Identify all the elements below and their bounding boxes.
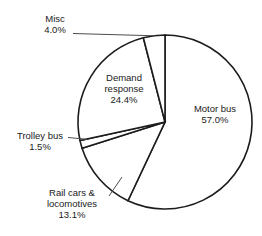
- pie-label-motor-bus-name: Motor bus: [180, 103, 250, 114]
- pie-label-misc-percent: 4.0%: [26, 24, 84, 35]
- pie-label-motor-bus: Motor bus 57.0%: [180, 103, 250, 125]
- pie-label-trolley-bus: Trolley bus 1.5%: [2, 130, 78, 152]
- pie-label-misc: Misc 4.0%: [26, 13, 84, 35]
- pie-label-motor-bus-percent: 57.0%: [180, 114, 250, 125]
- pie-label-demand-response: Demand response 24.4%: [88, 72, 160, 105]
- leader-line-misc: [73, 34, 155, 36]
- pie-label-rail-cars-name-line1: Rail cars &: [34, 187, 110, 198]
- pie-label-trolley-bus-percent: 1.5%: [2, 141, 78, 152]
- pie-label-demand-response-name-line2: response: [88, 83, 160, 94]
- pie-label-demand-response-percent: 24.4%: [88, 94, 160, 105]
- pie-chart: Misc 4.0% Demand response 24.4% Motor bu…: [0, 0, 262, 236]
- pie-label-misc-name: Misc: [26, 13, 84, 24]
- pie-label-rail-cars-percent: 13.1%: [34, 209, 110, 220]
- pie-label-rail-cars-name-line2: locomotives: [34, 198, 110, 209]
- pie-label-trolley-bus-name: Trolley bus: [2, 130, 78, 141]
- pie-label-demand-response-name-line1: Demand: [88, 72, 160, 83]
- pie-label-rail-cars-locomotives: Rail cars & locomotives 13.1%: [34, 187, 110, 220]
